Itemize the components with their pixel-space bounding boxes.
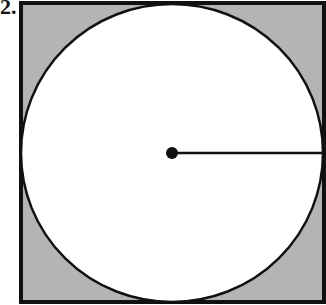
center-point bbox=[166, 147, 178, 159]
diagram-figure bbox=[0, 0, 326, 305]
